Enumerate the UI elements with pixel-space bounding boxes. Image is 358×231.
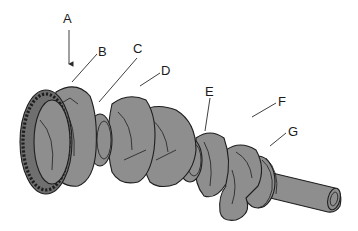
callout-g-label: G [288, 125, 298, 138]
callout-f-label: F [278, 95, 286, 108]
callout-e-label: E [205, 85, 214, 98]
callout-c-label: C [133, 42, 142, 55]
crankshaft-illustration [0, 0, 358, 231]
crankshaft-diagram: A B C D E F G [0, 0, 358, 231]
front-counterweights [108, 97, 196, 187]
callout-d-label: D [161, 64, 170, 77]
callout-b-label: B [98, 45, 107, 58]
callout-a-label: A [63, 12, 72, 25]
